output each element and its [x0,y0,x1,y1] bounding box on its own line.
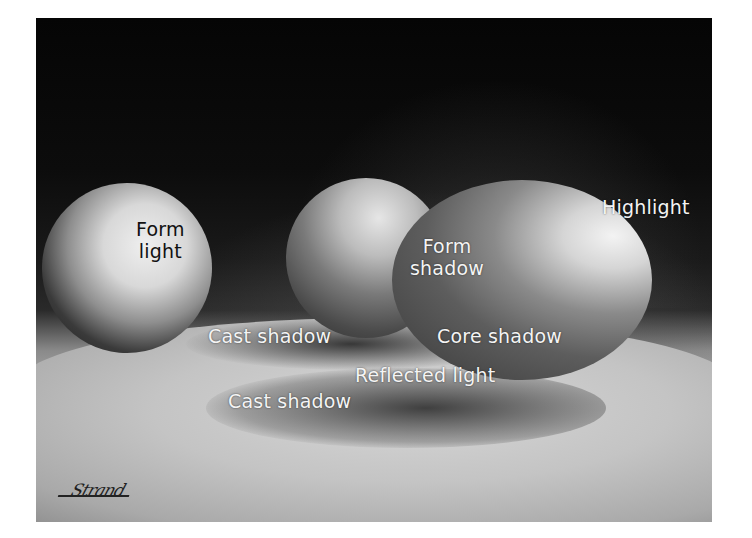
egg-still-life-artwork: Strand [36,18,712,522]
label-form-light-line1: Form [136,218,185,240]
artist-signature: Strand [69,480,128,500]
label-form-light-line2: light [136,240,185,262]
label-form-shadow: Form shadow [410,235,484,279]
label-cast-shadow-lower: Cast shadow [228,390,351,412]
label-core-shadow: Core shadow [437,325,562,347]
label-form-light: Form light [136,218,185,262]
label-form-shadow-line1: Form [410,235,484,257]
label-cast-shadow-upper: Cast shadow [208,325,331,347]
label-highlight: Highlight [602,196,690,218]
label-form-shadow-line2: shadow [410,257,484,279]
label-reflected-light: Reflected light [355,364,496,386]
